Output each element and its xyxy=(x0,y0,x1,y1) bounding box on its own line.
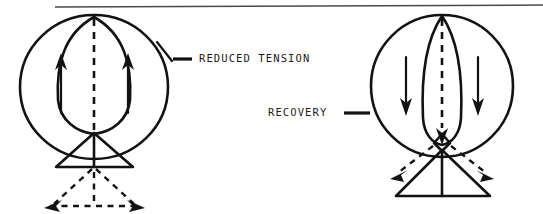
right-recoil-arrowhead xyxy=(476,170,494,182)
dashed-arrowhead-right xyxy=(127,200,145,212)
dashed-arrowhead-left xyxy=(44,200,62,212)
figure-container: Reduced tension and recovery diagram xyxy=(0,0,543,214)
dashed-triangle-left-side xyxy=(54,169,92,204)
right-recoil-arrow-line xyxy=(451,146,485,172)
reduced-tension-label: REDUCED TENSION xyxy=(199,52,310,64)
dashed-triangle-right-side xyxy=(96,169,134,204)
left-recoil-arrow-line xyxy=(399,146,433,172)
left-recoil-arrowhead xyxy=(390,170,408,182)
page-top-rule xyxy=(55,5,543,7)
right-up-arrow xyxy=(122,53,134,113)
reduced-tension-recovery-figure: Reduced tension and recovery diagram xyxy=(0,0,543,214)
reduced-tension-panel xyxy=(20,15,168,212)
recovery-label: RECOVERY xyxy=(268,106,327,118)
right-down-arrow xyxy=(472,57,484,116)
left-down-arrow xyxy=(400,57,412,116)
recovery-panel xyxy=(371,15,513,196)
